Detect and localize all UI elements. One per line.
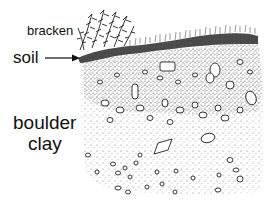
bracken-plants bbox=[77, 10, 135, 50]
soil-arrow bbox=[45, 55, 80, 62]
soil-profile-drawing bbox=[0, 0, 276, 206]
